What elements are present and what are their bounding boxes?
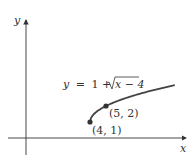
point-label-4-1: (4, 1) — [92, 124, 122, 137]
point-label-5-2: (5, 2) — [109, 107, 139, 120]
x-axis-label: x — [180, 142, 187, 155]
svg-text:x − 4: x − 4 — [115, 78, 144, 91]
y-axis-label: y — [13, 14, 21, 27]
equation-label: y = 1 + x − 4 — [62, 77, 144, 91]
graph: y x (4, 1) (5, 2) y = 1 + x − 4 — [0, 0, 194, 162]
svg-text:y = 1 +: y = 1 + — [62, 78, 111, 91]
point-5-2 — [103, 103, 108, 108]
